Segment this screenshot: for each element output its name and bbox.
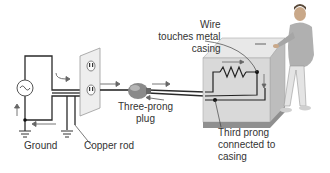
label-line: casing bbox=[178, 43, 221, 55]
label-line: casing bbox=[218, 151, 275, 163]
label-line: Three-prong bbox=[118, 101, 173, 113]
ac-source-icon bbox=[17, 80, 33, 96]
junction-dot bbox=[23, 118, 27, 122]
ac-source-circuit bbox=[25, 56, 82, 131]
power-cord bbox=[100, 90, 205, 96]
label-three-prong-plug: Three-prong plug bbox=[118, 101, 173, 125]
label-line: Third prong bbox=[218, 127, 275, 139]
label-line: touches metal bbox=[146, 31, 221, 43]
diagram-canvas: Wire touches metal casing Three-prong pl… bbox=[0, 0, 330, 173]
label-line: Wire bbox=[186, 19, 221, 31]
label-line: plug bbox=[118, 113, 173, 125]
ground-symbol-icon bbox=[19, 131, 31, 137]
label-line: connected to bbox=[218, 139, 275, 151]
copper-rod-ground-icon bbox=[61, 130, 73, 137]
label-third-prong: Third prong connected to casing bbox=[218, 127, 275, 163]
wall-outlet bbox=[80, 48, 100, 116]
label-copper-rod: Copper rod bbox=[84, 140, 134, 152]
label-ground: Ground bbox=[24, 140, 57, 152]
label-wire-touches-casing: Wire touches metal casing bbox=[186, 19, 221, 55]
